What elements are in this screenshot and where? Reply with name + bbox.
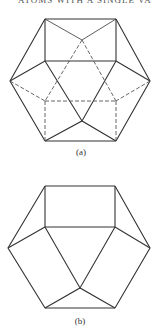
- figure-a-caption: (a): [66, 147, 96, 157]
- figure-b-cuboctahedron: [8, 186, 150, 308]
- polyhedra-diagram: [0, 0, 160, 332]
- figure-b-caption: (b): [65, 316, 95, 326]
- figure-a-cuboctahedron: [10, 19, 150, 141]
